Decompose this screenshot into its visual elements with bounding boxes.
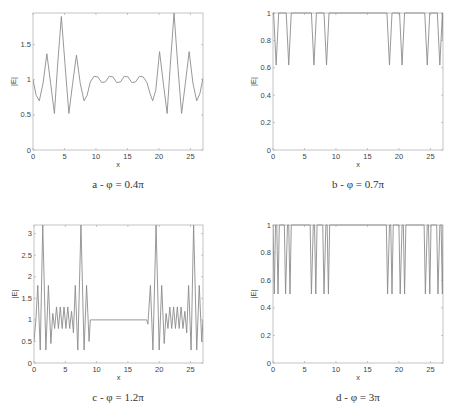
x-tick-label: 25 — [426, 152, 434, 161]
x-tick-label: 25 — [426, 365, 434, 374]
x-tick-label: 20 — [155, 365, 163, 374]
y-tick-label: 0 — [267, 146, 271, 155]
x-axis-label: x — [116, 160, 120, 169]
x-tick-label: 10 — [332, 365, 340, 374]
y-axis-label: |E| — [9, 77, 18, 86]
y-tick-label: 0.8 — [261, 248, 271, 257]
x-tick-label: 20 — [155, 152, 163, 161]
panel-c: 051015202500.511.522.53x|E| — [10, 225, 203, 382]
y-tick-label: 0.8 — [261, 36, 271, 45]
axes-box — [273, 13, 443, 150]
panel-d: 051015202500.20.40.60.81x|E| — [249, 221, 443, 383]
y-tick-label: 1.5 — [22, 294, 32, 303]
y-tick-label: 0.6 — [261, 276, 271, 285]
y-tick-label: 0.2 — [261, 331, 271, 340]
y-tick-label: 1.5 — [21, 40, 31, 49]
y-tick-label: 2.5 — [22, 251, 32, 260]
x-tick-label: 0 — [271, 365, 275, 374]
y-tick-label: 2 — [28, 272, 32, 281]
axes-box — [273, 225, 443, 363]
y-tick-label: 0.5 — [21, 110, 31, 119]
y-tick-label: 1 — [267, 221, 271, 230]
panel-b: 051015202500.20.40.60.81x|E| — [249, 9, 443, 170]
caption-c: c - φ = 1.2π — [68, 391, 168, 403]
y-tick-label: 0 — [267, 359, 271, 368]
axes-box — [34, 225, 203, 363]
caption-a: a - φ = 0.4π — [68, 178, 168, 190]
x-tick-label: 0 — [271, 152, 275, 161]
x-tick-label: 5 — [62, 152, 66, 161]
x-tick-label: 10 — [92, 152, 100, 161]
x-axis-label: x — [117, 373, 121, 382]
y-tick-label: 0.6 — [261, 63, 271, 72]
y-tick-label: 3 — [28, 229, 32, 238]
y-tick-label: 0 — [28, 359, 32, 368]
x-axis-label: x — [356, 160, 360, 169]
panel-a: 051015202500.511.5x|E| — [9, 13, 203, 169]
y-tick-label: 0.5 — [22, 337, 32, 346]
x-tick-label: 5 — [302, 152, 306, 161]
y-axis-label: |E| — [249, 77, 258, 86]
x-tick-label: 5 — [302, 365, 306, 374]
x-tick-label: 15 — [363, 365, 371, 374]
x-tick-label: 10 — [92, 365, 100, 374]
caption-b: b - φ = 0.7π — [308, 178, 408, 190]
x-tick-label: 20 — [395, 152, 403, 161]
x-tick-label: 25 — [186, 365, 194, 374]
caption-d: d - φ = 3π — [308, 391, 408, 403]
x-axis-label: x — [356, 373, 360, 382]
y-tick-label: 1 — [267, 9, 271, 18]
x-tick-label: 0 — [31, 152, 35, 161]
figure-canvas: 051015202500.511.5x|E| 051015202500.20.4… — [0, 0, 455, 420]
axes-box — [33, 13, 203, 150]
x-tick-label: 15 — [123, 152, 131, 161]
y-tick-label: 1 — [27, 75, 31, 84]
x-tick-label: 15 — [363, 152, 371, 161]
y-tick-label: 0.4 — [261, 303, 271, 312]
y-axis-label: |E| — [10, 290, 19, 299]
x-tick-label: 5 — [63, 365, 67, 374]
x-tick-label: 10 — [332, 152, 340, 161]
x-tick-label: 20 — [395, 365, 403, 374]
y-tick-label: 0.2 — [261, 118, 271, 127]
x-tick-label: 15 — [124, 365, 132, 374]
y-tick-label: 0.4 — [261, 91, 271, 100]
y-tick-label: 1 — [28, 315, 32, 324]
y-axis-label: |E| — [249, 290, 258, 299]
x-tick-label: 25 — [186, 152, 194, 161]
x-tick-label: 0 — [32, 365, 36, 374]
y-tick-label: 0 — [27, 146, 31, 155]
